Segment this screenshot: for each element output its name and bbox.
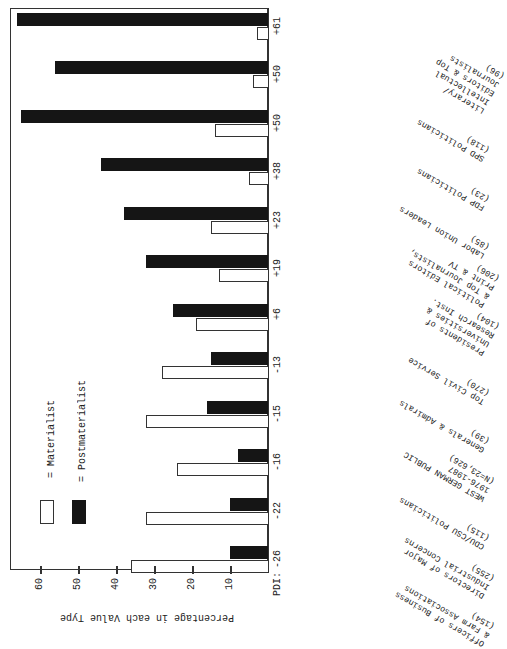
pdi-value: -26	[272, 550, 283, 568]
pdi-value: +19	[272, 259, 283, 277]
axis-tick-label: 60	[34, 578, 45, 590]
axis-tick-label: 50	[72, 578, 83, 590]
bar-postmaterialist	[173, 304, 268, 317]
axis-tick-label: 40	[110, 578, 121, 590]
bar-postmaterialist	[238, 449, 268, 462]
pdi-value: +6	[272, 308, 283, 320]
pdi-value: +38	[272, 162, 283, 180]
pdi-heading: PDI:	[272, 572, 283, 596]
bar-materialist	[146, 415, 269, 428]
bar-materialist	[253, 75, 269, 88]
legend-materialist-label: = Materialist	[46, 400, 57, 478]
pdi-value: +23	[272, 211, 283, 229]
pdi-value: +50	[272, 65, 283, 83]
axis-tick	[78, 566, 80, 574]
legend-postmaterialist-swatch	[72, 500, 86, 524]
zero-baseline	[267, 8, 269, 570]
pdi-value: -16	[272, 453, 283, 471]
pdi-value: +50	[272, 114, 283, 132]
category-label: Literary/ Intellectual Editors & Top Jou…	[424, 39, 506, 115]
bar-materialist	[215, 124, 269, 137]
legend-materialist-swatch	[40, 500, 54, 524]
bar-postmaterialist	[17, 13, 268, 26]
bar-materialist	[211, 221, 269, 234]
bar-postmaterialist	[211, 352, 268, 365]
bar-postmaterialist	[146, 255, 268, 268]
axis-title: Percentage in each Value Type	[60, 612, 234, 623]
axis-tick	[230, 566, 232, 574]
axis-tick-label: 30	[148, 578, 159, 590]
bar-materialist	[162, 366, 269, 379]
bar-postmaterialist	[21, 110, 268, 123]
bar-postmaterialist	[124, 207, 268, 220]
pdi-value: -22	[272, 502, 283, 520]
axis-tick	[116, 566, 118, 574]
axis-tick-label: 10	[224, 578, 235, 590]
bar-materialist	[249, 172, 269, 185]
bar-postmaterialist	[207, 401, 268, 414]
category-label: SPD Politicians (118)	[415, 108, 491, 164]
pdi-value: +61	[272, 17, 283, 35]
axis-tick	[40, 566, 42, 574]
bar-materialist	[219, 269, 269, 282]
bar-materialist	[177, 463, 269, 476]
bar-materialist	[146, 512, 269, 525]
bar-postmaterialist	[230, 498, 268, 511]
plot-frame	[10, 8, 268, 570]
pdi-value: -15	[272, 405, 283, 423]
bar-postmaterialist	[101, 158, 268, 171]
bar-materialist	[196, 318, 269, 331]
pdi-value: -13	[272, 356, 283, 374]
axis-tick-label: 20	[186, 578, 197, 590]
bar-materialist	[257, 27, 269, 40]
category-label: FDP Politicians (23)	[415, 157, 491, 213]
axis-tick	[154, 566, 156, 574]
axis-tick	[192, 566, 194, 574]
legend-postmaterialist-label: = Postmaterialist	[77, 380, 88, 482]
bar-postmaterialist	[230, 546, 268, 559]
bar-materialist	[131, 560, 269, 573]
bar-postmaterialist	[55, 61, 268, 74]
